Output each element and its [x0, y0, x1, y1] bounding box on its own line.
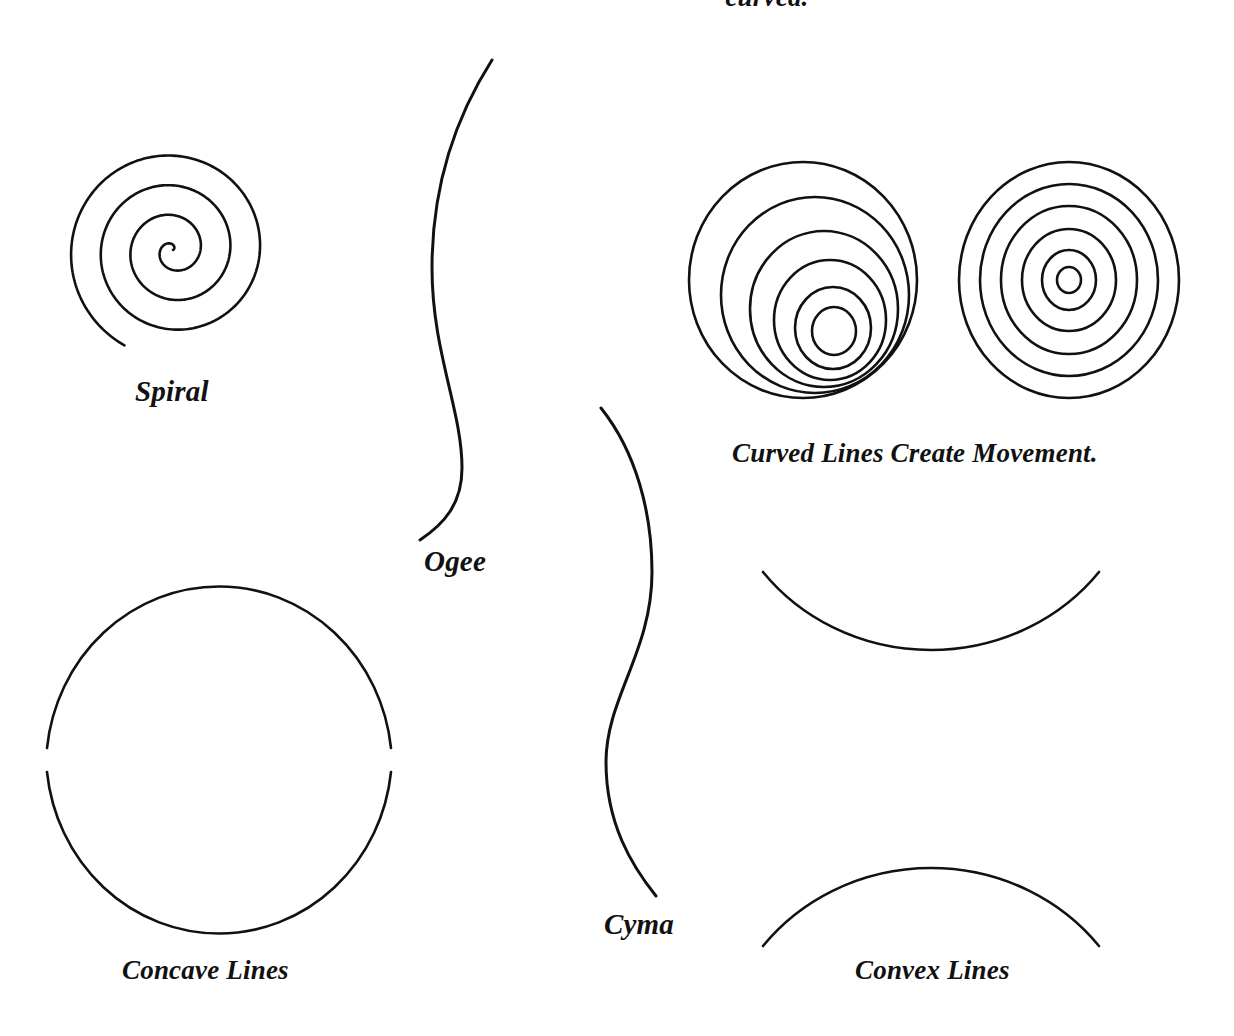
- convex-arc-lower: [763, 868, 1099, 946]
- concave-lines-figure: [47, 586, 391, 933]
- ogee-path: [420, 60, 492, 540]
- curved-lines-artwork: [0, 0, 1234, 1036]
- caption-ogee: Ogee: [424, 545, 486, 578]
- concentric-ring-6: [1057, 267, 1081, 293]
- caption-curved-lines-create-movement: Curved Lines Create Movement.: [732, 438, 1098, 469]
- cyma-path: [601, 408, 656, 896]
- convex-lines-figure: [763, 572, 1099, 946]
- caption-spiral: Spiral: [135, 375, 209, 408]
- concave-arc-upper: [47, 586, 391, 748]
- ogee-figure: [420, 60, 492, 540]
- eccentric-ring-6: [812, 307, 856, 355]
- concentric-ring-5: [1042, 250, 1096, 310]
- concentric-ring-2: [980, 184, 1158, 376]
- diagram-page: curved.: [0, 0, 1234, 1036]
- concave-arc-lower: [47, 772, 391, 934]
- cyma-figure: [601, 408, 656, 896]
- caption-convex-lines: Convex Lines: [855, 955, 1010, 986]
- convex-arc-upper: [763, 572, 1099, 650]
- caption-concave-lines: Concave Lines: [122, 955, 289, 986]
- spiral-figure: [71, 156, 260, 346]
- concentric-ring-4: [1022, 229, 1116, 331]
- caption-cyma: Cyma: [604, 908, 674, 941]
- concentric-ring-1: [959, 162, 1179, 398]
- spiral-path: [71, 156, 260, 346]
- eccentric-circles-figure: [689, 162, 917, 398]
- concentric-circles-figure: [959, 162, 1179, 398]
- eccentric-ring-5: [795, 287, 871, 369]
